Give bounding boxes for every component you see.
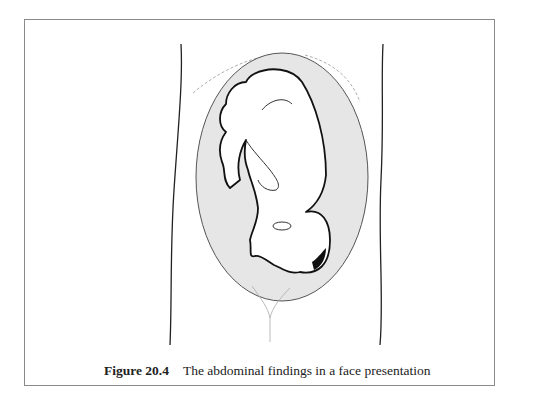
abdomen-right-contour <box>380 44 383 345</box>
face-presentation-illustration <box>0 0 546 405</box>
figure-caption-text: The abdominal findings in a face present… <box>183 363 430 379</box>
figure-label: Figure 20.4 <box>104 363 169 379</box>
abdomen-left-contour <box>170 44 181 345</box>
